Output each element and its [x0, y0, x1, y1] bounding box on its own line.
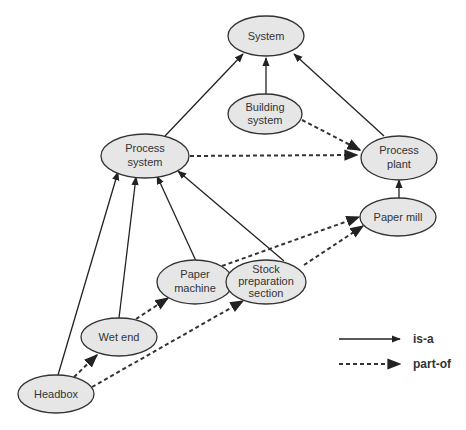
node-label: plant	[387, 158, 411, 170]
edge-process-plant-to-system	[294, 54, 384, 136]
node-wet-end[interactable]: Wet end	[81, 318, 157, 356]
node-building-system[interactable]: Building system	[228, 94, 302, 134]
node-label: Building	[245, 101, 284, 113]
node-label: system	[248, 114, 283, 126]
ontology-diagram: System Building system Process system Pr…	[0, 0, 466, 430]
node-label: section	[249, 287, 284, 299]
node-label: Paper mill	[374, 211, 423, 223]
edge-headbox-to-wet-end	[74, 355, 97, 377]
node-label: system	[128, 156, 163, 168]
node-label: Process	[379, 144, 419, 156]
node-system[interactable]: System	[228, 16, 304, 56]
legend: is-a part-of	[339, 332, 452, 371]
edge-building-system-to-process-plant	[302, 120, 360, 150]
node-process-plant[interactable]: Process plant	[361, 136, 437, 180]
node-label: Headbox	[34, 388, 79, 400]
node-label: Stock	[252, 263, 280, 275]
node-paper-machine[interactable]: Paper machine	[157, 260, 233, 304]
edge-stock-preparation-to-paper-mill	[304, 226, 363, 265]
legend-isa-label: is-a	[413, 332, 434, 346]
edge-process-system-to-process-plant	[190, 155, 357, 156]
edge-paper-machine-to-paper-mill	[222, 217, 359, 266]
node-label: machine	[174, 282, 216, 294]
node-paper-mill[interactable]: Paper mill	[360, 198, 436, 236]
node-headbox[interactable]: Headbox	[18, 375, 94, 413]
node-label: preparation	[238, 275, 294, 287]
node-process-system[interactable]: Process system	[101, 134, 189, 178]
node-stock-preparation-section[interactable]: Stock preparation section	[226, 260, 306, 304]
node-label: Paper	[180, 268, 210, 280]
edge-paper-machine-to-process-system	[157, 176, 196, 261]
edge-stock-preparation-to-process-system	[178, 171, 284, 261]
legend-partof-label: part-of	[413, 357, 452, 371]
node-label: Wet end	[99, 331, 140, 343]
edge-wet-end-to-process-system	[119, 177, 136, 318]
node-label: System	[248, 30, 285, 42]
edge-process-system-to-system	[165, 54, 243, 136]
node-label: Process	[125, 142, 165, 154]
edge-wet-end-to-paper-machine	[136, 298, 168, 319]
